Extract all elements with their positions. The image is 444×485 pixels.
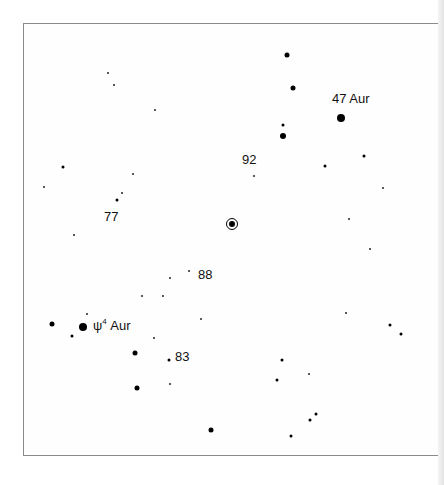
star-point — [337, 114, 345, 122]
star-point — [168, 359, 171, 362]
star-point — [169, 383, 171, 385]
star-point — [348, 218, 350, 220]
label-92: 92 — [242, 153, 256, 166]
label-77: 77 — [104, 210, 118, 223]
star-point — [309, 419, 312, 422]
star-point — [290, 435, 293, 438]
target-star-marker — [226, 218, 238, 230]
star-point — [113, 84, 115, 86]
star-point — [345, 312, 347, 314]
star-point — [400, 333, 403, 336]
star-point — [107, 72, 109, 74]
star-point — [363, 155, 366, 158]
star-point — [50, 322, 55, 327]
label-47-aur: 47 Aur — [332, 92, 370, 105]
star-point — [209, 428, 214, 433]
star-point — [315, 413, 318, 416]
star-point — [285, 53, 290, 58]
star-point — [291, 86, 296, 91]
psi-glyph: ψ — [93, 318, 102, 333]
star-point — [79, 323, 87, 331]
star-point — [200, 318, 202, 320]
star-point — [281, 359, 284, 362]
star-point — [71, 335, 74, 338]
star-point — [132, 173, 134, 175]
star-point — [116, 199, 119, 202]
star-point — [169, 277, 171, 279]
label-psi4-aur: ψ4 Aur — [93, 319, 131, 332]
star-point — [188, 270, 190, 272]
star-point — [324, 165, 327, 168]
star-point — [280, 133, 286, 139]
label-88: 88 — [198, 268, 212, 281]
star-point — [62, 166, 65, 169]
star-point — [141, 295, 143, 297]
star-point — [73, 234, 75, 236]
chart-frame — [23, 23, 443, 456]
star-point — [389, 324, 392, 327]
star-chart-page: 47 Aur 92 77 88 ψ4 Aur 83 — [0, 0, 444, 485]
psi-suffix: Aur — [107, 318, 131, 333]
star-point — [135, 386, 140, 391]
star-point — [253, 175, 255, 177]
star-point — [382, 187, 384, 189]
star-point — [121, 192, 123, 194]
star-point — [43, 186, 45, 188]
star-point — [86, 313, 88, 315]
star-point — [369, 248, 371, 250]
page-edge-shadow — [438, 0, 444, 485]
star-point — [308, 373, 310, 375]
psi-superscript: 4 — [102, 317, 106, 326]
star-point — [162, 295, 164, 297]
star-point — [276, 379, 279, 382]
label-83: 83 — [175, 350, 189, 363]
star-point — [282, 124, 285, 127]
star-point — [154, 109, 156, 111]
star-point — [133, 351, 138, 356]
star-point — [153, 337, 155, 339]
